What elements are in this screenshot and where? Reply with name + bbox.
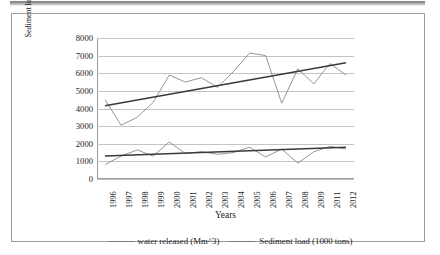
x-axis-tick-label: 2005 [253, 191, 262, 208]
x-axis-tick-label: 2001 [189, 191, 198, 208]
scan-artifact-band [10, 1, 425, 6]
x-axis-tick-label: 2000 [173, 191, 182, 208]
chart-figure-frame: Sediment load ( 1000 tons) Water release… [11, 13, 425, 242]
y-axis-tick-label: 7000 [59, 51, 93, 61]
x-axis-tick-label: 1999 [157, 191, 166, 208]
legend-line-swatch [229, 241, 255, 242]
x-axis-tick-label: 2009 [317, 191, 326, 208]
series-lines [97, 38, 354, 179]
y-axis-tick-label: 3000 [59, 121, 93, 131]
x-axis-tick-label: 1996 [109, 191, 118, 208]
x-axis-tick-label: 1998 [141, 191, 150, 208]
x-axis-tick-label: 2003 [221, 191, 230, 208]
y-axis-tick-label: 6000 [59, 68, 93, 78]
x-axis-tick-label: 2002 [205, 191, 214, 208]
chart-legend: water released (Mm^3)Sediment load (1000… [23, 236, 437, 246]
y-axis-tick-label: 2000 [59, 139, 93, 149]
x-axis-tick-label: 2007 [285, 191, 294, 208]
legend-label: Sediment load (1000 tons) [259, 236, 352, 246]
x-axis-tick-label: 2006 [269, 191, 278, 208]
x-axis-tick-label: 2008 [301, 191, 310, 208]
trendline-0 [105, 63, 346, 106]
y-axis-tick-label: 8000 [59, 33, 93, 43]
y-axis-tick-label: 5000 [59, 86, 93, 96]
series-line-0 [105, 53, 346, 125]
legend-entry[interactable]: Sediment load (1000 tons) [229, 236, 352, 246]
x-axis-tick-labels: 1996199719981999200020012002200320042005… [97, 182, 354, 212]
gridline [97, 179, 354, 180]
y-axis-tick-label: 1000 [59, 156, 93, 166]
y-axis-tick-label: 0 [59, 174, 93, 184]
y-axis-tick-label: 4000 [59, 104, 93, 114]
series-line-1 [105, 142, 346, 165]
legend-entry[interactable]: water released (Mm^3) [108, 236, 220, 246]
y-axis-tick-labels: 800070006000500040003000200010000 [57, 38, 93, 179]
x-axis-tick-label: 2012 [349, 191, 358, 208]
x-axis-tick-label: 1997 [125, 191, 134, 208]
legend-line-swatch [108, 241, 134, 242]
x-axis-title: Years [97, 210, 354, 220]
x-axis-tick-label: 2011 [333, 192, 342, 208]
x-axis-tick-label: 2004 [237, 191, 246, 208]
plot-area [97, 38, 354, 179]
legend-label: water released (Mm^3) [138, 236, 220, 246]
